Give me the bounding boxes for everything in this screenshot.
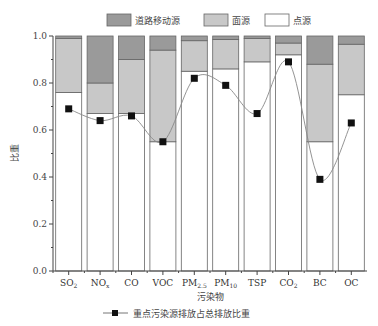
bar-segment-SO2-2 [56, 36, 82, 38]
legend-marker-icon [112, 310, 118, 316]
line-marker-CO2 [285, 58, 292, 65]
bar-segment-VOC-2 [150, 36, 176, 50]
bar-segment-NOx-2 [87, 36, 113, 83]
y-axis-title: 比重 [9, 144, 20, 162]
bar-segment-PM2.5-2 [181, 36, 207, 41]
top-legend: 道路移动源面源点源 [107, 14, 311, 26]
x-tick-label: VOC [152, 278, 174, 288]
bar-segment-BC-1 [307, 64, 333, 142]
bar-segment-CO-2 [119, 36, 145, 60]
line-marker-SO2 [65, 105, 72, 112]
y-tick-label: 0.0 [33, 266, 48, 276]
x-tick-label: BC [313, 278, 327, 288]
legend-label: 点源 [293, 16, 311, 26]
line-marker-PM2.5 [191, 75, 198, 82]
y-tick-label: 0.2 [33, 219, 47, 229]
x-tick-label: CO [124, 278, 138, 288]
bar-segment-NOx-0 [87, 114, 113, 271]
x-tick-label: NOx [91, 278, 110, 289]
line-marker-PM10 [222, 82, 229, 89]
bottom-legend: 重点污染源排放占总排放比重 [103, 308, 250, 319]
line-marker-TSP [254, 110, 261, 117]
bar-segment-BC-0 [307, 142, 333, 271]
y-tick-label: 0.6 [33, 125, 48, 135]
line-marker-NOx [97, 117, 104, 124]
bar-segment-CO2-2 [276, 36, 302, 43]
legend-label: 道路移动源 [135, 15, 180, 26]
x-tick-label: TSP [248, 278, 266, 288]
bar-segment-CO2-1 [276, 43, 302, 55]
legend-label: 面源 [232, 16, 250, 26]
bar-segment-PM10-2 [213, 36, 239, 40]
bar-segment-TSP-0 [244, 62, 270, 271]
bar-segment-PM10-0 [213, 69, 239, 271]
line-marker-VOC [159, 138, 166, 145]
stacked-bar-chart: 道路移动源面源点源 0.00.20.40.60.81.0SO2NOxCOVOCP… [0, 0, 378, 326]
x-tick-label: CO2 [279, 278, 297, 289]
y-tick-label: 0.8 [33, 78, 48, 88]
bar-segment-OC-1 [338, 44, 364, 95]
bar-segment-PM10-1 [213, 40, 239, 69]
bar-segment-VOC-0 [150, 142, 176, 271]
legend-swatch [204, 14, 228, 26]
y-tick-label: 0.4 [33, 172, 48, 182]
legend-label: 重点污染源排放占总排放比重 [133, 308, 250, 319]
line-marker-OC [348, 119, 355, 126]
bar-segment-BC-2 [307, 36, 333, 64]
x-tick-label: SO2 [60, 278, 78, 289]
bar-segment-TSP-1 [244, 38, 270, 62]
x-tick-label: PM10 [214, 278, 237, 289]
x-tick-label: OC [344, 278, 358, 288]
legend-swatch [265, 14, 289, 26]
x-axis-title: 污染物 [197, 291, 224, 302]
bar-segment-OC-2 [338, 36, 364, 44]
bar-segment-SO2-1 [56, 38, 82, 92]
bars-layer [56, 36, 365, 271]
legend-swatch [107, 14, 131, 26]
bar-segment-CO-1 [119, 60, 145, 114]
bar-segment-TSP-2 [244, 36, 270, 38]
line-marker-CO [128, 112, 135, 119]
bar-segment-CO-0 [119, 114, 145, 271]
x-tick-label: PM2.5 [182, 278, 207, 289]
bar-segment-NOx-1 [87, 83, 113, 114]
line-marker-BC [316, 176, 323, 183]
bar-segment-SO2-0 [56, 92, 82, 271]
y-tick-label: 1.0 [33, 31, 48, 41]
bar-segment-PM2.5-0 [181, 71, 207, 271]
bar-segment-PM2.5-1 [181, 41, 207, 72]
